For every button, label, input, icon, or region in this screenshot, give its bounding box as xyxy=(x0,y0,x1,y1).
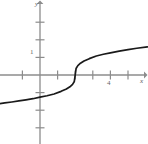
graph-figure: y x 1 4 xyxy=(0,0,148,144)
coordinate-plane-svg xyxy=(0,0,148,144)
y-axis-label: y xyxy=(35,1,38,8)
x-axis-label: x xyxy=(140,78,143,85)
x-axis-arrowhead xyxy=(144,72,148,79)
y-tick-label-1: 1 xyxy=(30,49,34,56)
x-tick-label-4: 4 xyxy=(107,80,111,87)
